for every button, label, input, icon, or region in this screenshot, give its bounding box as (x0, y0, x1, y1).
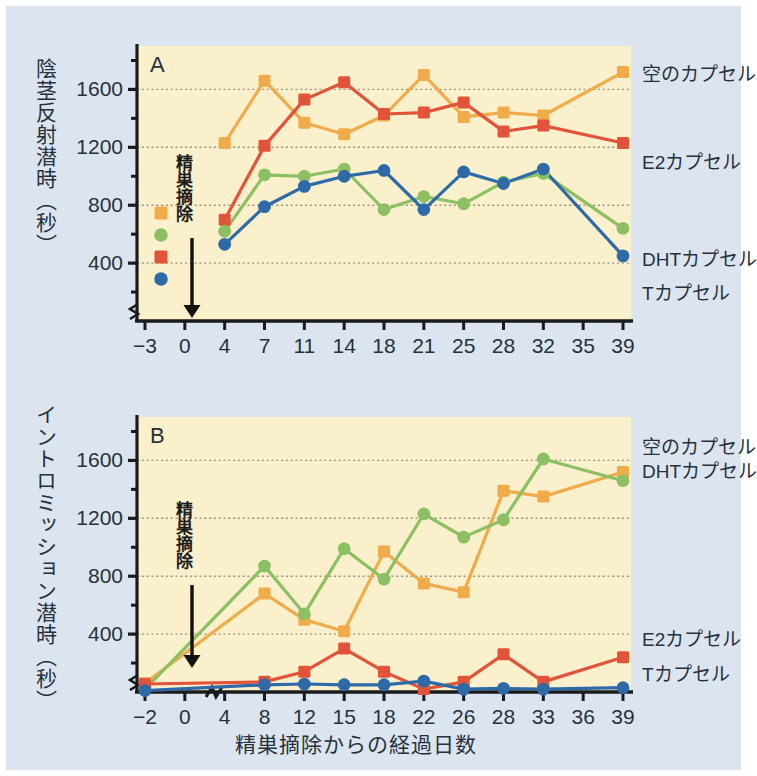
legend-marker-dht (154, 228, 168, 242)
data-point-t (258, 200, 271, 213)
data-point-e2 (298, 666, 310, 678)
data-point-dht (258, 560, 271, 573)
y-tick-label: 1200 (76, 135, 123, 158)
y-tick-label: 800 (88, 193, 123, 216)
data-point-t (537, 163, 550, 176)
data-point-e2 (259, 140, 271, 152)
x-tick-label: 36 (571, 705, 594, 728)
data-point-t (617, 681, 630, 694)
x-tick-label: 18 (372, 705, 395, 728)
data-point-t (139, 684, 152, 697)
panel-a: 陰茎反射潜時（秒） 40080012001600−304711141821252… (6, 6, 741, 376)
panel-a-svg: 40080012001600−3047111418212528323539A (6, 6, 741, 376)
data-point-e2 (458, 96, 470, 108)
panel-b-label-e2: E2カプセル (642, 629, 741, 651)
x-tick-label: 11 (293, 334, 315, 357)
data-point-e2 (219, 214, 231, 226)
figure-card: 陰茎反射潜時（秒） 40080012001600−304711141821252… (6, 6, 741, 770)
data-point-empty (418, 69, 430, 81)
data-point-t (298, 180, 311, 193)
castration-arrow-icon (184, 305, 201, 318)
data-point-dht (457, 197, 470, 210)
x-tick-label: 32 (532, 334, 555, 357)
x-tick-label: 12 (293, 705, 316, 728)
data-point-dht (298, 607, 311, 620)
data-point-dht (378, 573, 391, 586)
x-tick-label: 33 (532, 705, 555, 728)
data-point-e2 (418, 107, 430, 119)
data-point-empty (537, 491, 549, 503)
data-point-t (218, 238, 231, 251)
data-point-dht (218, 225, 231, 238)
data-point-dht (537, 453, 550, 466)
data-point-empty (259, 588, 271, 600)
panel-b-svg: 40080012001600−2048121518222628333639B (6, 376, 741, 770)
data-point-e2 (298, 94, 310, 106)
panel-letter: A (150, 52, 165, 77)
data-point-dht (417, 190, 430, 203)
x-tick-label: 0 (179, 334, 191, 357)
panel-a-label-empty: 空のカプセル (642, 64, 756, 86)
legend-marker-empty (155, 207, 168, 220)
data-point-t (258, 678, 271, 691)
y-tick-label: 1600 (76, 77, 123, 100)
data-point-t (457, 166, 470, 179)
data-point-e2 (338, 76, 350, 88)
data-point-empty (458, 111, 470, 123)
data-point-empty (259, 75, 271, 87)
data-point-t (417, 675, 430, 688)
panel-b-label-empty: 空のカプセル (642, 437, 756, 459)
data-point-e2 (378, 666, 390, 678)
data-point-empty (498, 485, 510, 497)
panel-a-label-t: Tカプセル (642, 283, 730, 305)
x-tick-label: 28 (492, 334, 515, 357)
y-tick-label: 400 (88, 251, 123, 274)
data-point-e2 (498, 125, 510, 137)
data-point-t (417, 203, 430, 216)
y-tick-label: 800 (88, 564, 123, 587)
x-tick-label: 28 (492, 705, 515, 728)
data-point-empty (458, 586, 470, 598)
data-point-t (378, 164, 391, 177)
data-point-e2 (537, 120, 549, 132)
y-tick-label: 400 (88, 622, 123, 645)
legend-marker-e2 (155, 251, 168, 264)
x-tick-label: 4 (219, 334, 231, 357)
x-tick-label: 39 (611, 705, 634, 728)
data-point-empty (219, 137, 231, 149)
data-point-dht (258, 168, 271, 181)
data-point-empty (617, 66, 629, 78)
x-tick-label: 18 (372, 334, 395, 357)
data-point-t (497, 682, 510, 695)
data-point-empty (498, 107, 510, 119)
data-point-dht (497, 513, 510, 526)
data-point-empty (338, 625, 350, 637)
data-point-empty (378, 546, 390, 558)
x-axis-title: 精巣摘除からの経過日数 (235, 728, 477, 758)
x-tick-label: 0 (179, 705, 191, 728)
data-point-dht (617, 474, 630, 487)
data-point-empty (298, 117, 310, 129)
y-tick-label: 1200 (76, 506, 123, 529)
data-point-t (338, 170, 351, 183)
x-tick-label: 8 (259, 705, 271, 728)
data-point-e2 (338, 643, 350, 655)
data-point-e2 (498, 648, 510, 660)
data-point-t (537, 683, 550, 696)
panel-b-annotation: 精巣摘除 (170, 501, 195, 579)
x-tick-label: 26 (452, 705, 475, 728)
x-tick-label: 14 (332, 334, 356, 357)
data-point-dht (417, 508, 430, 521)
data-point-e2 (617, 137, 629, 149)
data-point-t (457, 683, 470, 696)
x-tick-label: −3 (133, 334, 157, 357)
y-tick-label: 1600 (76, 448, 123, 471)
castration-arrow-icon (184, 655, 201, 668)
x-tick-label: 35 (571, 334, 594, 357)
data-point-t (497, 177, 510, 190)
data-point-t (298, 678, 311, 691)
panel-b-label-t: Tカプセル (642, 664, 730, 686)
panel-a-label-e2: E2カプセル (642, 152, 741, 174)
data-point-dht (338, 542, 351, 555)
